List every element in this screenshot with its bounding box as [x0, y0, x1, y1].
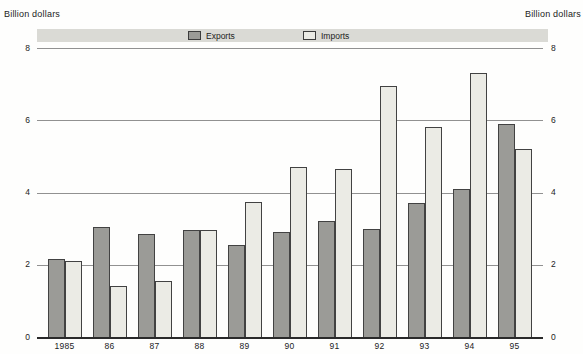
chart-page: Billion dollars Billion dollars Exports …: [0, 0, 583, 354]
y-label-right-0: 0: [551, 332, 571, 342]
bar-imports-91: [335, 169, 352, 337]
y-label-left-0: 0: [10, 332, 30, 342]
y-label-left-6: 6: [10, 115, 30, 125]
bar-exports-87: [138, 234, 155, 337]
y-label-left-2: 2: [10, 259, 30, 269]
legend-item-imports: Imports: [303, 29, 349, 42]
bar-exports-93: [408, 203, 425, 337]
gridline-6: [37, 120, 543, 121]
x-axis-baseline: [37, 337, 543, 339]
exports-swatch-icon: [188, 31, 201, 40]
legend-label-exports: Exports: [206, 31, 235, 41]
bar-imports-92: [380, 86, 397, 337]
legend: Exports Imports: [37, 29, 548, 42]
x-label-88: 88: [177, 341, 223, 351]
bar-imports-88: [200, 230, 217, 337]
bar-imports-87: [155, 281, 172, 337]
legend-item-exports: Exports: [188, 29, 235, 42]
x-label-87: 87: [132, 341, 178, 351]
y-label-right-4: 4: [551, 187, 571, 197]
legend-label-imports: Imports: [321, 31, 349, 41]
bar-imports-94: [470, 73, 487, 337]
bar-imports-90: [290, 167, 307, 337]
gridline-8: [37, 48, 543, 49]
bar-imports-95: [515, 149, 532, 337]
x-label-90: 90: [267, 341, 313, 351]
x-label-91: 91: [312, 341, 358, 351]
right-axis-title: Billion dollars: [525, 9, 581, 19]
bar-exports-90: [273, 232, 290, 337]
bar-exports-88: [183, 230, 200, 337]
bar-imports-93: [425, 127, 442, 337]
bar-exports-91: [318, 221, 335, 337]
left-axis-title: Billion dollars: [4, 9, 60, 19]
bar-imports-1985: [65, 261, 82, 337]
y-label-right-8: 8: [551, 43, 571, 53]
bar-exports-94: [453, 189, 470, 337]
x-label-89: 89: [222, 341, 268, 351]
bar-exports-95: [498, 124, 515, 337]
y-label-left-8: 8: [10, 43, 30, 53]
y-label-right-6: 6: [551, 115, 571, 125]
x-label-86: 86: [87, 341, 133, 351]
bar-exports-1985: [48, 259, 65, 337]
y-label-right-2: 2: [551, 259, 571, 269]
x-label-95: 95: [492, 341, 538, 351]
bar-imports-86: [110, 286, 127, 337]
x-label-93: 93: [402, 341, 448, 351]
x-label-1985: 1985: [42, 341, 88, 351]
bar-exports-92: [363, 229, 380, 337]
imports-swatch-icon: [303, 31, 316, 40]
bar-imports-89: [245, 202, 262, 337]
y-label-left-4: 4: [10, 187, 30, 197]
x-label-92: 92: [357, 341, 403, 351]
bar-exports-86: [93, 227, 110, 337]
x-label-94: 94: [447, 341, 493, 351]
bar-exports-89: [228, 245, 245, 337]
